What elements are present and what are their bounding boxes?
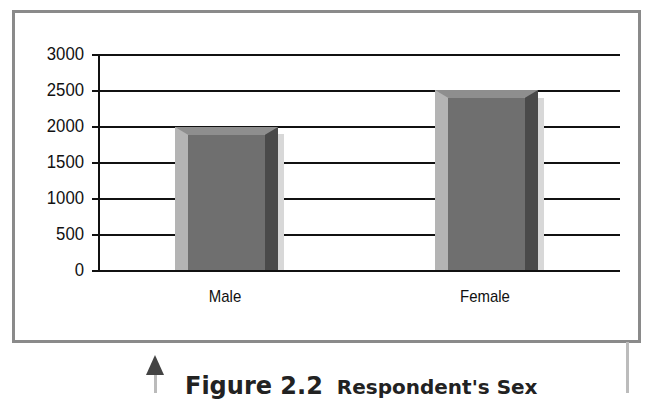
arrow-up-icon: [146, 355, 164, 375]
bar-female-front-face: [448, 98, 525, 270]
side-rule: [626, 342, 629, 393]
gridline-2500: [92, 90, 620, 92]
category-label-male: Male: [185, 287, 264, 307]
ytick-label-3000: 3000: [22, 43, 84, 65]
ytick-label-1500: 1500: [22, 151, 84, 173]
ytick-label-2500: 2500: [22, 79, 84, 101]
bar-male-front-face: [188, 135, 265, 270]
y-axis-line: [98, 54, 100, 272]
bar-male-shadow: [278, 134, 284, 270]
x-axis-baseline: [92, 270, 620, 272]
bar-male-left-face: [175, 127, 188, 270]
gridline-3000: [92, 54, 620, 56]
bar-female-right-face: [525, 90, 538, 270]
bar-female-top-face: [435, 90, 538, 98]
category-label-female: Female: [445, 287, 524, 307]
ytick-label-0: 0: [22, 259, 84, 281]
chart-frame: [12, 10, 641, 343]
bar-male-right-face: [265, 127, 278, 270]
ytick-label-1000: 1000: [22, 187, 84, 209]
ytick-label-2000: 2000: [22, 115, 84, 137]
bar-male-top-face: [175, 127, 278, 135]
ytick-label-500: 500: [22, 223, 84, 245]
bar-female-left-face: [435, 90, 448, 270]
figure-caption: Figure 2.2 Respondent's Sex: [185, 372, 538, 400]
figure-title: Respondent's Sex: [337, 375, 538, 399]
bar-female-shadow: [538, 98, 544, 270]
figure-label: Figure 2.2: [185, 372, 323, 400]
arrow-stem: [154, 375, 157, 393]
